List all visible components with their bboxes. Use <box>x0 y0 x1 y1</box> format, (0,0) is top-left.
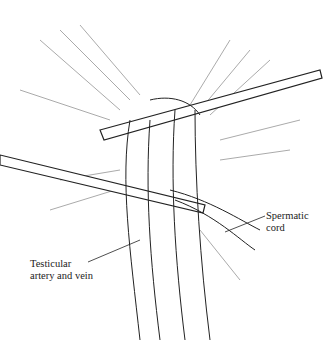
tissue-hatching <box>20 25 300 280</box>
medical-illustration: Spermatic cord Testicular artery and vei… <box>0 0 331 340</box>
label-spermatic-cord: Spermatic cord <box>266 210 309 234</box>
label-line: artery and vein <box>30 270 93 282</box>
illustration-drawing <box>0 0 331 340</box>
label-line: Spermatic <box>266 210 309 222</box>
label-testicular-artery-vein: Testicular artery and vein <box>30 258 93 282</box>
retractors <box>0 70 322 213</box>
label-line: Testicular <box>30 258 93 270</box>
label-line: cord <box>266 222 309 234</box>
spermatic-cord-structure <box>126 98 260 340</box>
